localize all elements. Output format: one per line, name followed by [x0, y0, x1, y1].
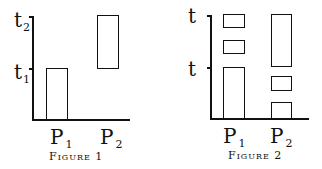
p-text: P [100, 125, 113, 149]
p-subscript: 2 [285, 137, 292, 150]
tick-t-upper [207, 15, 211, 17]
p1-block-top [223, 14, 245, 28]
label-t1: t1 [14, 62, 30, 90]
p-text: P [223, 124, 236, 148]
p2-block-middle [271, 76, 292, 91]
figure-1: t2 t1 P1 P2 Figure 1 [0, 0, 161, 169]
t-text: t [188, 57, 196, 81]
p2-block-bottom [271, 102, 292, 119]
p-text: P [50, 125, 63, 149]
label-p2: P2 [100, 127, 122, 155]
figure-caption: Figure 1 [49, 150, 103, 163]
label-t-lower: t [188, 59, 197, 87]
t-subscript: 2 [23, 21, 30, 34]
label-t-upper: t [188, 6, 197, 34]
t-text: t [14, 8, 22, 32]
t-text: t [188, 4, 196, 28]
p2-block [97, 15, 119, 69]
figure-2: t t P1 P2 Figure 2 [161, 0, 322, 169]
p1-block-bottom [223, 67, 245, 119]
t-subscript: 1 [23, 73, 30, 86]
p2-block-top [271, 14, 292, 67]
tick-t-lower [207, 67, 211, 69]
p1-block-middle [223, 40, 245, 54]
label-t2: t2 [14, 10, 30, 38]
p-text: P [270, 124, 283, 148]
p1-block [46, 68, 68, 120]
figure-caption: Figure 2 [228, 149, 282, 162]
t-text: t [14, 60, 22, 84]
p-subscript: 2 [115, 138, 122, 151]
